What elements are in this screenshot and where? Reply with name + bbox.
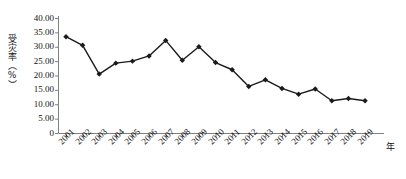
x-tick-label: 2009 [190,127,209,146]
x-tick-label: 2010 [207,127,226,146]
x-tick-label: 2016 [306,127,325,146]
x-tick-label: 2014 [273,127,292,146]
x-tick-label: 2008 [173,127,192,146]
x-tick-label: 2006 [140,127,159,146]
x-axis-tick-labels: 2001200220032004200520062007200820092010… [0,0,406,179]
x-tick-label: 2013 [256,127,275,146]
x-tick-label: 2003 [90,127,109,146]
x-tick-label: 2018 [339,127,358,146]
x-axis-title: 年 [386,143,395,152]
x-tick-label: 2019 [356,127,375,146]
disaster-rate-line-chart: 受灾率（%） 05.0010.0015.0020.0025.0030.0035.… [0,0,406,179]
x-tick-label: 2005 [123,127,142,146]
x-tick-label: 2011 [223,128,242,147]
x-tick-label: 2001 [57,127,76,146]
